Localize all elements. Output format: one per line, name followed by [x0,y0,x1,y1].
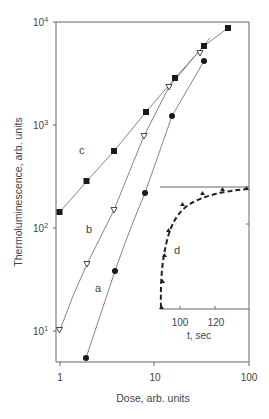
x-axis-title: Dose, arb. units [116,392,190,404]
series-d-markers [159,186,249,309]
x-tick-1: 1 [57,372,63,383]
y-tick-1e1: 101 [33,325,48,337]
x-tick-labels: 1 10 100 [57,372,258,383]
chart: 104 103 102 101 1 10 100 Dose, arb. unit… [0,0,269,419]
y-tick-1e4: 104 [33,16,48,28]
x-tick-10: 10 [149,372,161,383]
x-axis-ticks [60,362,249,366]
series-label-c: c [79,144,85,156]
inset-plot: d 100 120 t, sec [159,186,249,341]
x-tick-100: 100 [241,372,258,383]
curve-b [60,38,210,330]
y-tick-labels: 104 103 102 101 [33,16,48,337]
series-a-markers [83,58,207,361]
series-label-b: b [86,223,92,235]
inset-x-tick-100: 100 [172,317,189,328]
series-label-d: d [174,244,180,256]
y-axis-title: Thermoluminescence, arb. units [12,117,24,266]
inset-x-tick-120: 120 [208,317,225,328]
curve-a [86,61,204,358]
y-tick-1e2: 102 [33,222,48,234]
series-b-markers [57,51,204,334]
inset-x-title: t, sec [187,330,211,341]
y-tick-1e3: 103 [33,119,48,131]
curve-c [58,28,228,214]
series-label-a: a [95,282,102,294]
